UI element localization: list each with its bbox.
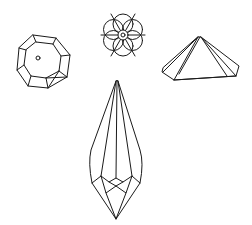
crystal-shapes-figure [0,0,252,225]
pendant-drop-crystal-icon [90,81,142,219]
octagon-crystal-icon [17,35,70,88]
pyramid-crystal-icon [162,37,239,80]
rosette-crystal-icon [101,14,145,56]
